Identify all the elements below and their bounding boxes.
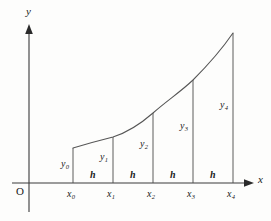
x-axis-label: x bbox=[258, 174, 263, 185]
ordinate-label-y1: y1 bbox=[100, 152, 108, 162]
abscissa-label-x2: x2 bbox=[147, 189, 155, 199]
abscissa-label-x3-sub: 3 bbox=[192, 193, 195, 200]
interval-label-h-1: h bbox=[130, 170, 136, 180]
ordinate-label-y1-sub: 1 bbox=[105, 156, 108, 163]
abscissa-label-x1-sub: 1 bbox=[112, 193, 115, 200]
ordinate-label-y3: y3 bbox=[180, 121, 188, 131]
ordinate-label-y2-text: y bbox=[140, 138, 144, 149]
interval-label-h-3: h bbox=[210, 170, 216, 180]
ordinate-label-y0-text: y bbox=[61, 158, 65, 169]
ordinate-label-y3-text: y bbox=[180, 120, 184, 131]
ordinate-label-y4: y4 bbox=[220, 100, 228, 110]
ordinate-label-y1-text: y bbox=[100, 151, 104, 162]
abscissa-label-x1: x1 bbox=[107, 189, 115, 199]
abscissa-label-x1-text: x bbox=[107, 188, 111, 199]
abscissa-label-x0-sub: 0 bbox=[72, 193, 75, 200]
abscissa-label-x4: x4 bbox=[227, 189, 235, 199]
origin-label: O bbox=[16, 186, 24, 197]
y-axis bbox=[25, 24, 33, 212]
ordinate-label-y2-sub: 2 bbox=[145, 143, 148, 150]
ordinate-label-y3-sub: 3 bbox=[185, 125, 188, 132]
interval-label-h-0: h bbox=[90, 170, 96, 180]
abscissa-label-x2-text: x bbox=[147, 188, 151, 199]
abscissa-label-x2-sub: 2 bbox=[152, 193, 155, 200]
abscissa-label-x0: x0 bbox=[67, 189, 75, 199]
ordinate-label-y2: y2 bbox=[140, 139, 148, 149]
abscissa-label-x3-text: x bbox=[187, 188, 191, 199]
abscissa-label-x4-text: x bbox=[227, 188, 231, 199]
y-axis-label: y bbox=[26, 6, 31, 17]
ordinate-label-y4-text: y bbox=[220, 99, 224, 110]
interval-label-h-2: h bbox=[170, 170, 176, 180]
abscissa-label-x0-text: x bbox=[67, 188, 71, 199]
ordinate-label-y0: y0 bbox=[61, 159, 69, 169]
ordinate-label-y0-sub: 0 bbox=[66, 163, 69, 170]
ordinate-lines bbox=[73, 33, 233, 183]
abscissa-label-x3: x3 bbox=[187, 189, 195, 199]
abscissa-label-x4-sub: 4 bbox=[232, 193, 235, 200]
x-axis bbox=[12, 179, 254, 187]
ordinate-label-y4-sub: 4 bbox=[225, 104, 228, 111]
